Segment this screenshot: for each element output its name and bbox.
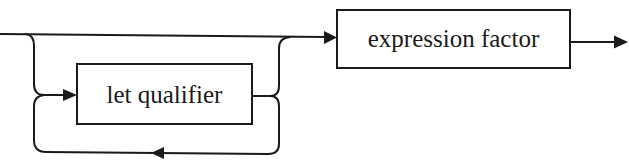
bypass-line: [0, 34, 326, 37]
syntax-diagram: let qualifier expression factor: [0, 0, 629, 166]
arrow-into-expression-factor-icon: [324, 31, 337, 44]
let-qualifier-label: let qualifier: [107, 81, 224, 108]
expression-factor-node: expression factor: [337, 10, 570, 68]
arrow-into-let-qualifier-icon: [63, 89, 77, 101]
let-qualifier-node: let qualifier: [77, 64, 252, 124]
branch-down-left: [26, 34, 66, 95]
merge-up-right: [252, 37, 290, 96]
arrow-exit-icon: [614, 36, 628, 49]
expression-factor-label: expression factor: [368, 25, 540, 52]
arrow-loop-back-icon: [151, 147, 164, 159]
